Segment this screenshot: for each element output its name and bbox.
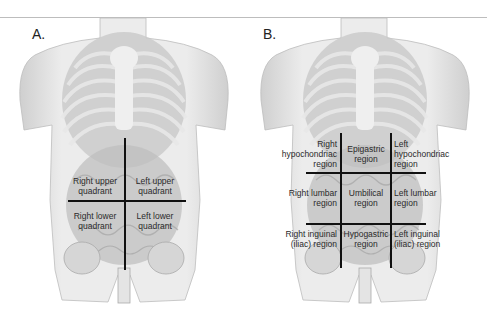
region-left-lower-quadrant: Left lower quadrant [127, 211, 183, 231]
horizontal-umbilical-line-a [68, 200, 186, 202]
panel-label-b: B. [263, 26, 276, 42]
region-left-upper-quadrant: Left upper quadrant [127, 176, 183, 196]
region-epigastric: Epigastric region [342, 144, 390, 164]
panel-b-nine-regions: B. Right hypochondriac region Epigastric… [243, 0, 486, 314]
panel-a-quadrants: A. Right upper quadrant Left upper quadr… [0, 0, 243, 314]
horizontal-line-subcostal [306, 172, 426, 174]
horizontal-line-intertubercular [306, 223, 426, 225]
region-left-inguinal: Left inguinal (iliac) region [394, 229, 464, 249]
region-right-lumbar: Right lumbar region [273, 188, 337, 208]
region-right-lower-quadrant: Right lower quadrant [68, 211, 122, 231]
vertical-line-left-midclavicular [390, 133, 392, 268]
region-right-inguinal: Right inguinal (iliac) region [267, 229, 337, 249]
region-umbilical: Umbilical region [342, 188, 390, 208]
region-left-lumbar: Left lumbar region [394, 188, 458, 208]
region-right-hypochondriac: Right hypochondriac region [273, 139, 337, 169]
region-left-hypochondriac: Left hypochondriac region [394, 139, 458, 169]
torso-illustration-a [0, 0, 243, 314]
panel-label-a: A. [32, 26, 45, 42]
region-hypogastric: Hypogastric region [342, 229, 390, 249]
region-right-upper-quadrant: Right upper quadrant [68, 176, 122, 196]
vertical-midline-a [124, 138, 126, 270]
